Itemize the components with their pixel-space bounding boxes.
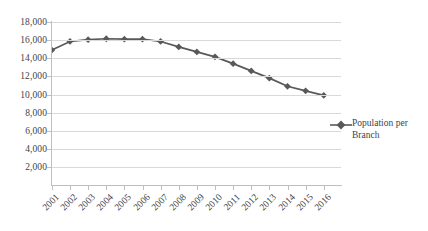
y-axis-tick-label: 4,000: [3, 144, 47, 154]
y-axis-tick-label: 6,000: [3, 126, 47, 136]
y-axis-tick-label: 12,000: [3, 71, 47, 81]
x-axis-tick-mark: [124, 186, 125, 190]
y-axis-tick-label: 18,000: [3, 17, 47, 27]
x-axis-tick-mark: [269, 186, 270, 190]
y-axis-tick-label: 2,000: [3, 162, 47, 172]
gridline: [51, 22, 341, 23]
gridline: [51, 149, 341, 150]
plot-area: [51, 22, 341, 185]
x-axis-tick-mark: [143, 186, 144, 190]
legend: Population per Branch: [330, 118, 428, 141]
x-axis-tick-mark: [215, 186, 216, 190]
x-axis-tick-mark: [197, 186, 198, 190]
gridline: [51, 58, 341, 59]
data-point-marker: [248, 68, 255, 75]
data-point-marker: [302, 87, 309, 94]
gridline: [51, 76, 341, 77]
series-line: [52, 39, 324, 96]
x-axis-tick-mark: [88, 186, 89, 190]
legend-entry-label: Population per Branch: [352, 118, 424, 141]
y-axis-tick-label: 10,000: [3, 90, 47, 100]
gridline: [51, 167, 341, 168]
data-point-marker: [230, 60, 237, 67]
x-axis-tick-mark: [106, 186, 107, 190]
y-axis-line: [51, 21, 52, 186]
data-series-population-per-branch: [51, 22, 341, 185]
x-axis-tick-mark: [70, 186, 71, 190]
gridline: [51, 40, 341, 41]
data-point-marker: [103, 35, 110, 42]
gridline: [51, 131, 341, 132]
gridline: [51, 113, 341, 114]
x-axis-tick-mark: [251, 186, 252, 190]
x-axis-tick-mark: [288, 186, 289, 190]
data-point-marker: [193, 48, 200, 55]
x-axis-tick-mark: [306, 186, 307, 190]
x-axis-tick-mark: [179, 186, 180, 190]
x-axis-tick-mark: [52, 186, 53, 190]
data-point-marker: [212, 53, 219, 60]
x-axis-tick-mark: [324, 186, 325, 190]
data-point-marker: [284, 83, 291, 90]
x-axis-tick-mark: [233, 186, 234, 190]
y-axis-tick-label: 16,000: [3, 35, 47, 45]
gridline: [51, 95, 341, 96]
line-chart: 18,000 16,000 14,000 12,000 10,000 8,000…: [0, 0, 428, 231]
data-point-marker: [175, 44, 182, 51]
y-axis-labels: 18,000 16,000 14,000 12,000 10,000 8,000…: [0, 0, 47, 231]
x-axis-tick-mark: [161, 186, 162, 190]
legend-marker-icon: [330, 119, 352, 131]
y-axis-tick-label: 14,000: [3, 53, 47, 63]
y-axis-tick-label: 8,000: [3, 108, 47, 118]
